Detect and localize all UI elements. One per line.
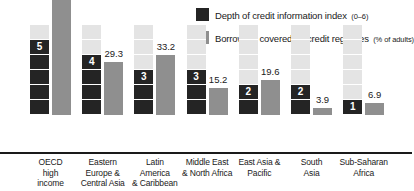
category-label-line: South <box>282 157 341 168</box>
index-segment <box>187 40 206 55</box>
index-segment <box>291 40 310 55</box>
index-bar-column: 3 <box>187 25 206 115</box>
coverage-bar-column: 29.3 <box>104 62 123 115</box>
category-label: OECDhighincome <box>21 157 80 189</box>
index-bar-column: 1 <box>343 25 362 115</box>
bar-group: 219.6 <box>239 0 280 115</box>
index-segment <box>239 85 258 100</box>
borrowers-coverage-bar[interactable]: 15.2 <box>209 88 228 115</box>
index-segment <box>343 55 362 70</box>
borrowers-coverage-bar[interactable]: 33.2 <box>156 55 175 115</box>
index-segment <box>134 85 153 100</box>
index-segment <box>239 40 258 55</box>
depth-index-bar[interactable]: 4 <box>82 25 101 115</box>
index-segment <box>82 85 101 100</box>
coverage-bar-column: 3.9 <box>313 108 332 115</box>
index-segment <box>239 25 258 40</box>
category-label: East Asia &Pacific <box>230 157 289 178</box>
bar-group: 429.3 <box>82 0 123 115</box>
index-segment <box>291 55 310 70</box>
index-segment <box>30 100 49 115</box>
coverage-bar-column: 19.6 <box>261 80 280 115</box>
category-label-line: OECD <box>21 157 80 168</box>
depth-index-bar[interactable]: 1 <box>343 25 362 115</box>
index-segment <box>134 70 153 85</box>
index-segment <box>82 100 101 115</box>
coverage-value-label: 6.9 <box>357 90 392 100</box>
category-label-line: & North Africa <box>178 168 237 179</box>
index-segment <box>291 25 310 40</box>
borrowers-coverage-bar[interactable]: 3.9 <box>313 108 332 115</box>
borrowers-coverage-bar[interactable]: 64.0 <box>52 0 71 115</box>
coverage-value-label: 3.9 <box>305 95 340 105</box>
index-segment <box>30 70 49 85</box>
index-segment <box>134 25 153 40</box>
category-label: EasternEurope &Central Asia <box>73 157 132 189</box>
category-label-line: Pacific <box>230 168 289 179</box>
index-segment <box>30 40 49 55</box>
index-segment <box>134 55 153 70</box>
category-label-line: Europe & <box>73 168 132 179</box>
category-label-line: America <box>125 168 184 179</box>
borrowers-coverage-bar[interactable]: 19.6 <box>261 80 280 115</box>
coverage-bar-column: 33.2 <box>156 55 175 115</box>
index-segment <box>239 100 258 115</box>
depth-index-bar[interactable]: 5 <box>30 25 49 115</box>
category-label-line: Middle East <box>178 157 237 168</box>
category-label-line: Africa <box>334 168 393 179</box>
index-segment <box>187 85 206 100</box>
index-segment <box>343 70 362 85</box>
index-bar-column: 5 <box>30 25 49 115</box>
index-segment <box>291 70 310 85</box>
index-segment <box>343 40 362 55</box>
index-segment <box>187 55 206 70</box>
bar-group: 564.0 <box>30 0 71 115</box>
index-segment <box>187 25 206 40</box>
borrowers-coverage-bar[interactable]: 29.3 <box>104 62 123 115</box>
borrowers-coverage-bar[interactable]: 6.9 <box>365 103 384 115</box>
coverage-value-label: 33.2 <box>148 42 183 52</box>
index-segment <box>343 100 362 115</box>
coverage-value-label: 29.3 <box>96 49 131 59</box>
index-segment <box>82 25 101 40</box>
category-label: Middle East& North Africa <box>178 157 237 178</box>
index-bar-column: 3 <box>134 25 153 115</box>
index-segment <box>82 70 101 85</box>
index-segment <box>30 85 49 100</box>
coverage-bar-column: 64.0 <box>52 0 71 115</box>
bar-group: 23.9 <box>291 0 332 115</box>
category-label-line: income <box>21 178 80 189</box>
index-segment <box>134 100 153 115</box>
index-segment <box>30 25 49 40</box>
bar-group: 315.2 <box>187 0 228 115</box>
category-label-line: Asia <box>282 168 341 179</box>
coverage-bar-column: 15.2 <box>209 88 228 115</box>
category-label-line: East Asia & <box>230 157 289 168</box>
category-label-line: Latin <box>125 157 184 168</box>
index-segment <box>30 55 49 70</box>
index-bar-column: 4 <box>82 25 101 115</box>
category-label: Sub-SaharanAfrica <box>334 157 393 178</box>
plot-area: 564.0429.3333.2315.2219.623.916.9 OECDhi… <box>0 0 412 154</box>
category-label: LatinAmerica& Caribbean <box>125 157 184 189</box>
index-segment <box>343 25 362 40</box>
category-label-line: & Caribbean <box>125 178 184 189</box>
depth-index-bar[interactable]: 3 <box>187 25 206 115</box>
category-label-line: high <box>21 168 80 179</box>
category-label-line: Central Asia <box>73 178 132 189</box>
coverage-value-label: 19.6 <box>253 67 288 77</box>
bar-group: 16.9 <box>343 0 384 115</box>
coverage-value-label: 15.2 <box>201 75 236 85</box>
category-label-line: Eastern <box>73 157 132 168</box>
depth-index-bar[interactable]: 3 <box>134 25 153 115</box>
bar-group: 333.2 <box>134 0 175 115</box>
index-segment <box>187 100 206 115</box>
coverage-bar-column: 6.9 <box>365 103 384 115</box>
x-axis-line <box>0 152 412 154</box>
category-label: SouthAsia <box>282 157 341 178</box>
category-label-line: Sub-Saharan <box>334 157 393 168</box>
